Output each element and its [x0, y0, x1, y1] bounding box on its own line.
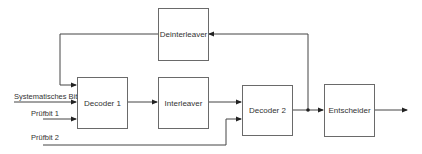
decoder1-label: Decoder 1 — [84, 99, 121, 108]
decoder2-block: Decoder 2 — [242, 85, 293, 136]
interleaver-label: Interleaver — [165, 99, 203, 108]
deinterleaver-block: Deinterleaver — [158, 8, 209, 61]
interleaver-block: Interleaver — [158, 77, 209, 129]
entscheider-block: Entscheider — [324, 84, 375, 137]
pruefbit2-line — [43, 119, 241, 145]
systematic-bit-label: Systematisches Bit — [14, 92, 77, 101]
entscheider-label: Entscheider — [328, 106, 370, 115]
pruefbit1-label: Prüfbit 1 — [31, 109, 59, 118]
junction-dot — [306, 108, 310, 112]
decoder2-label: Decoder 2 — [249, 106, 286, 115]
deinterleaver-label: Deinterleaver — [160, 30, 208, 39]
decoder1-block: Decoder 1 — [77, 77, 128, 129]
pruefbit2-label: Prüfbit 2 — [31, 133, 59, 142]
